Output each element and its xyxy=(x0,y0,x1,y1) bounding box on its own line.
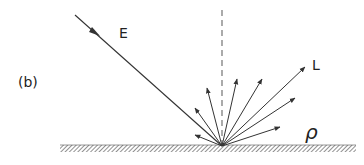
panel-label: (b) xyxy=(18,74,38,90)
reflected-ray-L xyxy=(222,67,305,146)
reflection-diagram: (b) E L ρ xyxy=(0,0,364,165)
reflectance-label: ρ xyxy=(305,120,318,144)
ground-surface xyxy=(60,145,356,152)
reflected-rays xyxy=(195,67,305,146)
incident-label: E xyxy=(119,25,128,41)
reflected-label: L xyxy=(312,57,320,73)
incident-ray xyxy=(75,15,222,146)
